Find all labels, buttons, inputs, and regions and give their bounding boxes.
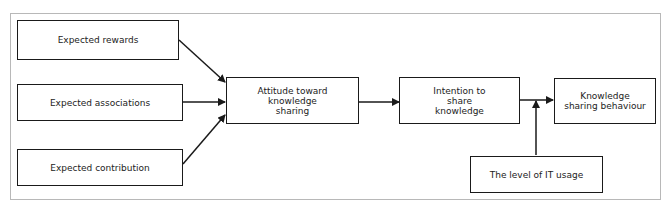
arrow-rewards-to-attitude bbox=[179, 40, 225, 82]
node-behaviour: Knowledge sharing behaviour bbox=[554, 78, 656, 124]
node-it-usage: The level of IT usage bbox=[470, 156, 603, 193]
node-label: Expected rewards bbox=[58, 35, 139, 45]
node-label: Knowledge sharing behaviour bbox=[563, 91, 647, 111]
node-label: Expected associations bbox=[50, 98, 150, 108]
node-expected-rewards: Expected rewards bbox=[17, 20, 179, 60]
node-expected-contribution: Expected contribution bbox=[17, 149, 183, 186]
node-attitude: Attitude toward knowledge sharing bbox=[226, 77, 359, 124]
node-intention: Intention to share knowledge bbox=[399, 77, 520, 124]
node-label: Attitude toward knowledge sharing bbox=[253, 86, 332, 116]
node-label: The level of IT usage bbox=[490, 170, 584, 180]
node-expected-associations: Expected associations bbox=[17, 84, 183, 121]
node-label: Expected contribution bbox=[50, 163, 149, 173]
arrow-contribution-to-attitude bbox=[183, 115, 225, 164]
node-label: Intention to share knowledge bbox=[422, 86, 497, 116]
